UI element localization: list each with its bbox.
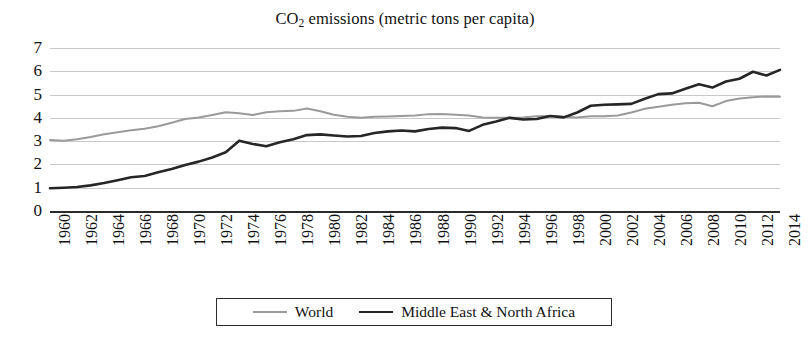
x-tick-label: 1986 xyxy=(408,214,424,272)
y-tick-label: 5 xyxy=(8,86,42,103)
x-tick-label: 1970 xyxy=(192,214,208,272)
series-line-1 xyxy=(50,96,780,140)
x-tick-label: 1966 xyxy=(138,214,154,272)
x-tick-label: 1994 xyxy=(517,214,533,272)
y-tick-label: 1 xyxy=(8,179,42,196)
series-line-2 xyxy=(50,70,780,188)
x-tick-label: 1982 xyxy=(354,214,370,272)
x-tick-label: 1964 xyxy=(111,214,127,272)
y-tick-label: 2 xyxy=(8,155,42,172)
x-tick-label: 1980 xyxy=(327,214,343,272)
x-tick-label: 1968 xyxy=(165,214,181,272)
x-tick-label: 1978 xyxy=(300,214,316,272)
x-tick-label: 2006 xyxy=(679,214,695,272)
x-tick-label: 1992 xyxy=(490,214,506,272)
x-tick-label: 1974 xyxy=(246,214,262,272)
x-tick-label: 2014 xyxy=(787,214,803,272)
x-tick-label: 1998 xyxy=(571,214,587,272)
plot-area xyxy=(50,48,780,211)
chart-title-rest: emissions (metric tons per capita) xyxy=(304,9,534,28)
legend-line-swatch xyxy=(253,311,287,313)
x-tick-label: 2000 xyxy=(598,214,614,272)
chart-legend: WorldMiddle East & North Africa xyxy=(216,298,612,326)
chart-title: CO2 emissions (metric tons per capita) xyxy=(0,9,810,29)
legend-label: Middle East & North Africa xyxy=(401,304,575,320)
legend-entry[interactable]: Middle East & North Africa xyxy=(359,304,575,320)
legend-label: World xyxy=(295,304,333,320)
x-tick-label: 1988 xyxy=(436,214,452,272)
chart-figure: CO2 emissions (metric tons per capita) 7… xyxy=(0,0,810,352)
x-tick-label: 1960 xyxy=(57,214,73,272)
x-tick-label: 1984 xyxy=(381,214,397,272)
legend-entry[interactable]: World xyxy=(253,304,333,320)
x-tick-label: 2010 xyxy=(733,214,749,272)
x-tick-label: 2002 xyxy=(625,214,641,272)
y-tick-label: 4 xyxy=(8,109,42,126)
x-tick-label: 1990 xyxy=(463,214,479,272)
y-tick-label: 6 xyxy=(8,62,42,79)
y-tick-label: 0 xyxy=(8,202,42,219)
axis-line-zero xyxy=(50,211,780,213)
series-container xyxy=(50,48,780,211)
x-axis: 1960196219641966196819701972197419761978… xyxy=(50,214,780,280)
x-tick-label: 2012 xyxy=(760,214,776,272)
x-tick-label: 2008 xyxy=(706,214,722,272)
legend-line-swatch xyxy=(359,311,393,313)
x-tick-label: 1972 xyxy=(219,214,235,272)
chart-title-main: CO xyxy=(275,9,298,28)
y-tick-label: 3 xyxy=(8,132,42,149)
y-tick-label: 7 xyxy=(8,39,42,56)
x-tick-label: 1962 xyxy=(84,214,100,272)
x-tick-label: 1996 xyxy=(544,214,560,272)
x-tick-label: 2004 xyxy=(652,214,668,272)
x-tick-label: 1976 xyxy=(273,214,289,272)
